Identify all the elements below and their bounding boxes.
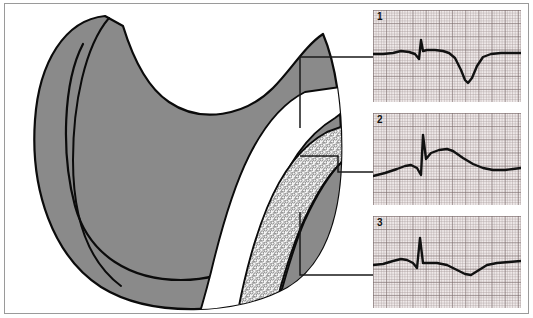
ecg-label-3: 3 <box>377 217 383 228</box>
ecg-strip-2[interactable]: 2 <box>373 113 521 205</box>
ecg-strip-1[interactable]: 1 <box>373 10 521 102</box>
ecg-label-2: 2 <box>377 114 383 125</box>
ecg-waveform-1 <box>373 10 521 102</box>
anatomy-panel <box>5 4 357 313</box>
ecg-waveform-2 <box>373 113 521 205</box>
ecg-strip-3[interactable]: 3 <box>373 216 521 308</box>
ecg-label-1: 1 <box>377 11 383 22</box>
figure-root: 1 2 3 <box>0 0 533 318</box>
ecg-waveform-3 <box>373 216 521 308</box>
